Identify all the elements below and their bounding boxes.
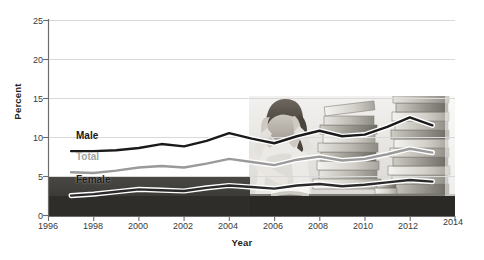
series-label-total: Total: [76, 151, 99, 162]
series-label-female: Female: [76, 174, 110, 185]
series-label-male: Male: [76, 130, 98, 141]
series-halo-male: [71, 117, 432, 151]
series-line-male: [71, 117, 432, 151]
chart-container: Percent 0 5 10 15 20 25 1996 1998 2000 2…: [0, 0, 484, 260]
series-line-total: [71, 149, 432, 173]
plot-area: [0, 0, 484, 260]
